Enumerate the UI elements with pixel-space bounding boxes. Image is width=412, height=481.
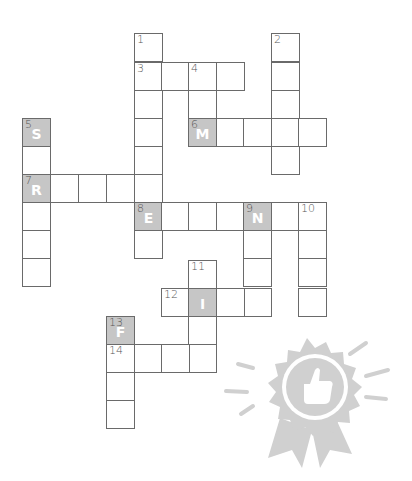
clue-number: 3	[137, 63, 144, 75]
crossword-cell[interactable]	[22, 202, 51, 231]
crossword-cell[interactable]	[271, 62, 300, 91]
crossword-cell[interactable]	[134, 146, 163, 175]
given-letter: R	[23, 182, 50, 198]
crossword-cell[interactable]	[134, 230, 163, 259]
crossword-cell[interactable]	[271, 90, 300, 119]
crossword-cell[interactable]	[50, 174, 79, 203]
crossword-cell[interactable]: 14	[106, 344, 135, 373]
crossword-cell[interactable]	[298, 230, 327, 259]
crossword-cell[interactable]	[216, 202, 245, 231]
crossword-cell[interactable]	[22, 146, 51, 175]
crossword-cell-given: I	[188, 288, 217, 317]
crossword-cell[interactable]	[161, 202, 190, 231]
crossword-cell[interactable]	[134, 174, 163, 203]
crossword-cell[interactable]	[106, 400, 135, 429]
crossword-cell-given: 13F	[106, 316, 135, 345]
given-letter: N	[244, 210, 271, 226]
crossword-cell[interactable]	[216, 118, 245, 147]
clue-number: 10	[301, 203, 315, 215]
crossword-cell[interactable]	[22, 230, 51, 259]
crossword-cell[interactable]: 11	[188, 260, 217, 289]
given-letter: M	[189, 126, 216, 142]
crossword-cell-given: 5S	[22, 118, 51, 147]
clue-number: 11	[191, 261, 205, 273]
crossword-cell[interactable]	[243, 288, 272, 317]
crossword-cell[interactable]	[271, 202, 300, 231]
crossword-cell[interactable]	[106, 174, 135, 203]
crossword-cell[interactable]	[298, 288, 327, 317]
crossword-cell[interactable]	[134, 344, 163, 373]
clue-number: 12	[164, 289, 178, 301]
crossword-cell[interactable]	[298, 258, 327, 287]
crossword-cell[interactable]: 1	[134, 33, 163, 62]
given-letter: E	[135, 210, 162, 226]
given-letter: S	[23, 126, 50, 142]
crossword-cell-given: 7R	[22, 174, 51, 203]
crossword-cell[interactable]	[243, 258, 272, 287]
crossword-cell[interactable]: 3	[134, 62, 163, 91]
crossword-cell[interactable]	[78, 174, 107, 203]
crossword-cell[interactable]	[161, 62, 190, 91]
crossword-cell[interactable]	[243, 230, 272, 259]
crossword-cell[interactable]: 12	[161, 288, 190, 317]
clue-number: 14	[109, 345, 123, 357]
clue-number: 2	[274, 34, 281, 46]
crossword-cell[interactable]	[216, 62, 245, 91]
crossword-cell[interactable]	[134, 118, 163, 147]
crossword-cell[interactable]: 4	[188, 62, 217, 91]
crossword-cell[interactable]	[188, 202, 217, 231]
crossword-cell[interactable]	[271, 146, 300, 175]
clue-number: 1	[137, 34, 144, 46]
crossword-cell[interactable]	[271, 118, 300, 147]
crossword-cell[interactable]: 2	[271, 33, 300, 62]
crossword-cell[interactable]	[243, 118, 272, 147]
clue-number: 4	[191, 63, 198, 75]
crossword-cell[interactable]	[22, 258, 51, 287]
crossword-cell[interactable]	[134, 90, 163, 119]
crossword-cell[interactable]: 10	[298, 202, 327, 231]
crossword-cell-given: 8E	[134, 202, 163, 231]
crossword-cell[interactable]	[106, 372, 135, 401]
crossword-cell-given: 9N	[243, 202, 272, 231]
given-letter: F	[107, 324, 134, 340]
award-badge-icon	[220, 318, 400, 468]
crossword-cell[interactable]	[216, 288, 245, 317]
given-letter: I	[189, 296, 216, 312]
crossword-cell[interactable]	[161, 344, 190, 373]
crossword-cell[interactable]	[188, 90, 217, 119]
crossword-cell[interactable]	[298, 118, 327, 147]
crossword-cell-given: 6M	[188, 118, 217, 147]
crossword-cell[interactable]	[188, 344, 217, 373]
crossword-cell[interactable]	[188, 316, 217, 345]
